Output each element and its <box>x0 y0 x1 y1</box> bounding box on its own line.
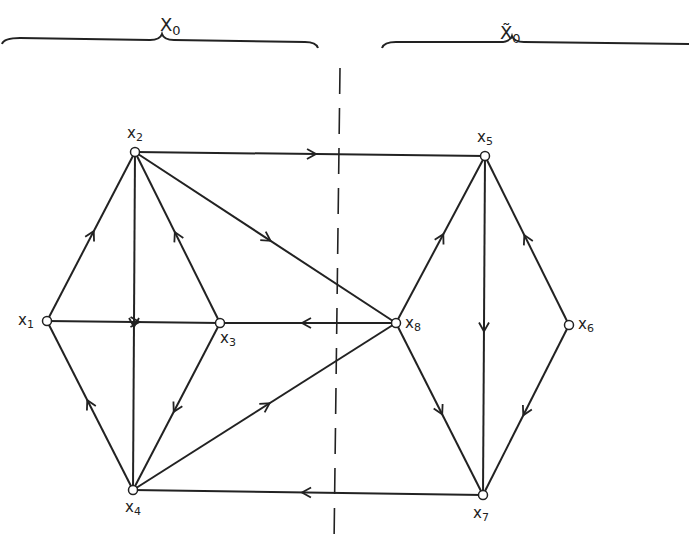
node-label-text: x <box>125 498 134 516</box>
node-label-text: x <box>473 504 482 522</box>
edge-x1-x2 <box>47 152 135 321</box>
node-label-subscript: 7 <box>482 511 489 524</box>
node-label-text: x <box>220 329 229 347</box>
node-label-x6: x6 <box>578 317 594 334</box>
node-x2 <box>131 148 140 157</box>
graph-diagram <box>0 0 689 553</box>
node-label-subscript: 4 <box>134 505 141 518</box>
edge-x6-x5 <box>485 156 569 325</box>
node-label-subscript: 3 <box>229 336 236 349</box>
edge-x3-x2 <box>135 152 220 323</box>
edge-x8-x5 <box>396 156 485 323</box>
node-label-text: x <box>578 315 587 333</box>
node-x8 <box>392 319 401 328</box>
edges <box>47 149 569 498</box>
edge-x3-x4 <box>133 323 220 490</box>
node-x5 <box>481 152 490 161</box>
node-label-x3: x3 <box>220 331 236 348</box>
node-x3 <box>216 319 225 328</box>
set-label-subscript: 0 <box>512 31 520 46</box>
node-x1 <box>43 317 52 326</box>
set-label-text: X̃ <box>500 22 512 43</box>
edge-x7-x4 <box>133 490 483 495</box>
node-label-x5: x5 <box>477 130 493 147</box>
node-label-text: x <box>405 314 414 332</box>
node-label-subscript: 1 <box>27 318 34 331</box>
node-x4 <box>129 486 138 495</box>
node-label-text: x <box>477 128 486 146</box>
divider-dashed-line <box>334 68 340 545</box>
edge-x4-x1 <box>47 321 133 490</box>
node-label-text: x <box>18 311 27 329</box>
edge-x4-x8 <box>133 323 396 490</box>
node-x6 <box>565 321 574 330</box>
node-label-subscript: 2 <box>136 131 143 144</box>
set-label-X0: X0 <box>160 14 181 38</box>
node-label-x2: x2 <box>127 126 143 143</box>
brace-x0-tilde <box>382 36 689 48</box>
set-label-X0tilde: X̃0 <box>500 22 521 46</box>
set-label-subscript: 0 <box>172 23 180 38</box>
node-label-subscript: 6 <box>587 322 594 335</box>
set-label-text: X <box>160 14 172 35</box>
edge-x2-x5 <box>135 152 485 156</box>
node-label-x4: x4 <box>125 500 141 517</box>
node-label-x8: x8 <box>405 316 421 333</box>
node-label-subscript: 8 <box>414 321 421 334</box>
node-label-x7: x7 <box>473 506 489 523</box>
node-x7 <box>479 491 488 500</box>
node-label-x1: x1 <box>18 313 34 330</box>
node-label-text: x <box>127 124 136 142</box>
edge-x6-x7 <box>483 325 569 495</box>
edge-x8-x7 <box>396 323 483 495</box>
edge-x5-x7 <box>483 156 485 495</box>
edge-x2-x4 <box>133 152 135 490</box>
node-label-subscript: 5 <box>486 135 493 148</box>
set-braces <box>2 34 689 48</box>
